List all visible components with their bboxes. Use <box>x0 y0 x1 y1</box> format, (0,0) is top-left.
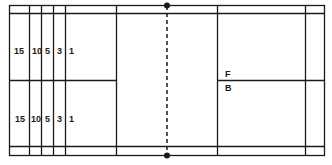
net-post-top <box>164 3 170 9</box>
back-label: B <box>225 84 232 93</box>
zone-label-15-bottom: 15 <box>15 115 25 124</box>
zone-label-15-top: 15 <box>14 47 24 56</box>
front-label: F <box>225 70 231 79</box>
zone-label-3-top: 3 <box>57 47 62 56</box>
net-post-bottom <box>164 153 170 159</box>
zone-label-3-bottom: 3 <box>57 115 62 124</box>
court-diagram <box>0 0 332 165</box>
zone-label-10-top: 10 <box>32 47 42 56</box>
zone-label-5-top: 5 <box>45 47 50 56</box>
zone-label-1-bottom: 1 <box>69 115 74 124</box>
zone-label-1-top: 1 <box>69 47 74 56</box>
zone-label-10-bottom: 10 <box>31 115 41 124</box>
zone-label-5-bottom: 5 <box>45 115 50 124</box>
